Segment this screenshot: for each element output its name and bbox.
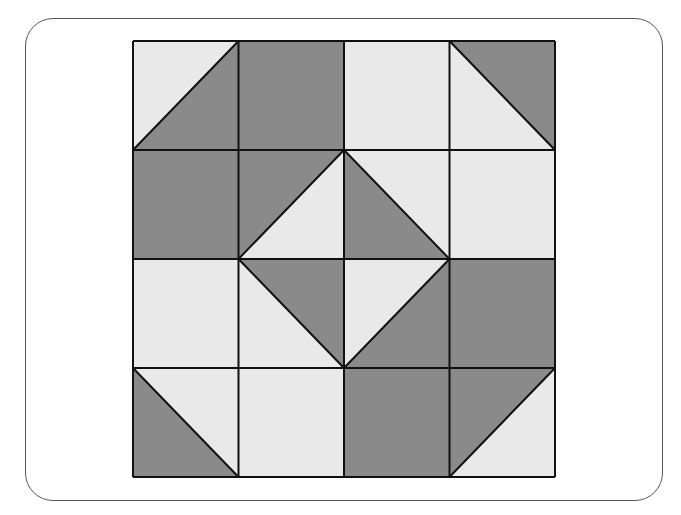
quilt-square [133, 150, 239, 259]
quilt-square [450, 259, 556, 368]
quilt-square [239, 41, 345, 150]
quilt-block-diagram [0, 0, 681, 515]
quilt-square [133, 259, 239, 368]
quilt-square [344, 368, 450, 477]
quilt-square [239, 368, 345, 477]
quilt-square [450, 150, 556, 259]
quilt-square [344, 41, 450, 150]
